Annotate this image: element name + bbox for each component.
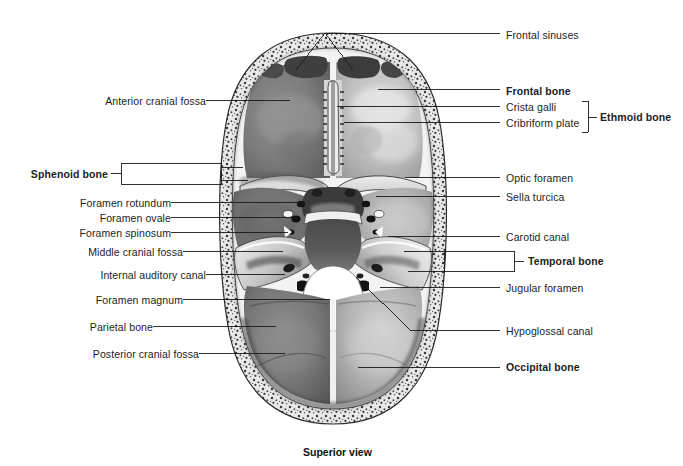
- label-ethmoid-bone: Ethmoid bone: [600, 111, 671, 123]
- midline-shadow: [331, 80, 335, 176]
- foramen-ovale-right: [366, 216, 375, 223]
- label-middle-cranial-fossa: Middle cranial fossa: [20, 246, 183, 258]
- hypoglossal-canal-left: [303, 274, 310, 279]
- label-optic-foramen: Optic foramen: [506, 172, 573, 184]
- label-internal-auditory-canal: Internal auditory canal: [20, 269, 206, 281]
- frontal-sinus-left: [284, 56, 327, 78]
- label-foramen-spinosum: Foramen spinosum: [20, 227, 171, 239]
- label-foramen-rotundum: Foramen rotundum: [20, 197, 171, 209]
- label-frontal-bone: Frontal bone: [506, 85, 571, 97]
- label-cribriform-plate: Cribriform plate: [506, 117, 579, 129]
- frontal-sinus-right: [337, 56, 380, 78]
- optic-foramen-left: [312, 189, 323, 197]
- sphenoid-bone-bracket: [121, 163, 221, 184]
- label-foramen-ovale: Foramen ovale: [20, 212, 171, 224]
- carotid-canal-left: [283, 210, 293, 217]
- label-temporal-bone: Temporal bone: [528, 255, 604, 267]
- foramen-rotundum-right: [362, 201, 370, 207]
- optic-foramen-right: [345, 189, 356, 197]
- skull-base-illustration: [220, 33, 447, 424]
- label-frontal-sinuses: Frontal sinuses: [506, 29, 579, 41]
- label-anterior-cranial-fossa: Anterior cranial fossa: [20, 95, 206, 107]
- hypoglossal-canal-right: [357, 274, 364, 279]
- label-sphenoid-bone: Sphenoid bone: [0, 168, 108, 180]
- label-occipital-bone: Occipital bone: [506, 361, 580, 373]
- label-jugular-foramen: Jugular foramen: [506, 282, 583, 294]
- figure-caption: Superior view: [303, 446, 372, 458]
- label-crista-galli: Crista galli: [506, 101, 556, 113]
- label-parietal-bone: Parietal bone: [20, 321, 153, 333]
- label-carotid-canal: Carotid canal: [506, 231, 569, 243]
- internal-occipital-crest: [330, 300, 336, 404]
- temporal-bone-bracket: [444, 251, 514, 271]
- label-hypoglossal-canal: Hypoglossal canal: [506, 325, 593, 337]
- carotid-canal-right: [374, 210, 384, 217]
- label-sella-turcica: Sella turcica: [506, 191, 565, 203]
- label-posterior-cranial-fossa: Posterior cranial fossa: [20, 348, 199, 360]
- label-foramen-magnum: Foramen magnum: [20, 294, 183, 306]
- ethmoid-bone-bracket: [582, 101, 588, 132]
